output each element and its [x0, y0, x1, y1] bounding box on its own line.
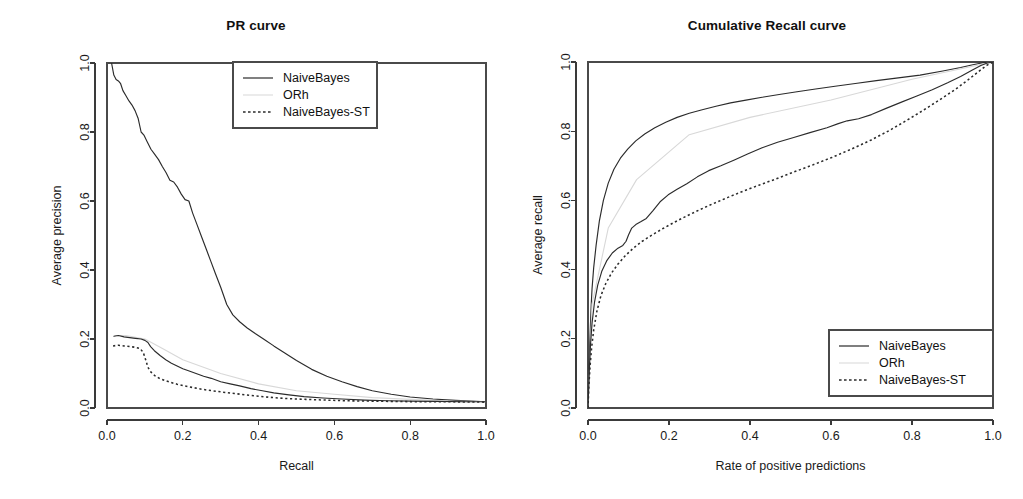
legend-label: ORh	[879, 356, 905, 370]
series-line-naivebayes-st-dashed	[113, 345, 486, 402]
y-axis-title: Average recall	[531, 195, 545, 275]
legend-label: NaiveBayes	[283, 71, 350, 85]
x-tick-label: 0.2	[174, 429, 191, 443]
panel-pr-curve: PR curve 0.00.20.40.60.81.0Recall0.00.20…	[0, 0, 512, 499]
y-tick-label: 1.0	[78, 54, 92, 71]
y-tick-label: 0.8	[559, 122, 573, 139]
x-axis-title: Recall	[279, 459, 314, 473]
x-tick-label: 0.2	[660, 429, 677, 443]
x-tick-label: 0.4	[250, 429, 267, 443]
cumulative-recall-plot: 0.00.20.40.60.81.0Rate of positive predi…	[511, 0, 1023, 499]
legend-label: ORh	[283, 88, 309, 102]
series-line-naivebayes-st	[114, 336, 486, 402]
y-axis-title: Average precision	[50, 186, 64, 286]
y-tick-label: 0.8	[78, 123, 92, 140]
y-tick-label: 0.6	[559, 192, 573, 209]
x-tick-label: 0.0	[579, 429, 596, 443]
x-tick-label: 0.4	[741, 429, 758, 443]
legend-label: NaiveBayes-ST	[879, 373, 966, 387]
y-tick-label: 0.2	[559, 330, 573, 347]
legend: NaiveBayesORhNaiveBayes-ST	[829, 330, 993, 396]
x-tick-label: 0.6	[326, 429, 343, 443]
x-tick-label: 1.0	[477, 429, 494, 443]
legend-label: NaiveBayes-ST	[283, 105, 370, 119]
pr-curve-plot: 0.00.20.40.60.81.0Recall0.00.20.40.60.81…	[0, 0, 512, 499]
x-tick-label: 0.8	[903, 429, 920, 443]
legend-label: NaiveBayes	[879, 339, 946, 353]
x-tick-label: 0.8	[402, 429, 419, 443]
x-axis-title: Rate of positive predictions	[715, 459, 865, 473]
y-tick-label: 0.4	[78, 261, 92, 278]
panel-cumulative-recall-curve: Cumulative Recall curve 0.00.20.40.60.81…	[511, 0, 1023, 499]
y-tick-label: 0.0	[78, 399, 92, 416]
x-tick-label: 0.6	[822, 429, 839, 443]
series-line-orh	[115, 336, 486, 402]
x-tick-label: 0.0	[98, 429, 115, 443]
y-tick-label: 0.6	[78, 192, 92, 209]
y-tick-label: 0.2	[78, 330, 92, 347]
legend: NaiveBayesORhNaiveBayes-ST	[233, 62, 377, 128]
y-tick-label: 0.0	[559, 399, 573, 416]
x-tick-label: 1.0	[984, 429, 1001, 443]
figure-canvas: PR curve 0.00.20.40.60.81.0Recall0.00.20…	[0, 0, 1023, 499]
y-tick-label: 0.4	[559, 261, 573, 278]
y-tick-label: 1.0	[559, 53, 573, 70]
